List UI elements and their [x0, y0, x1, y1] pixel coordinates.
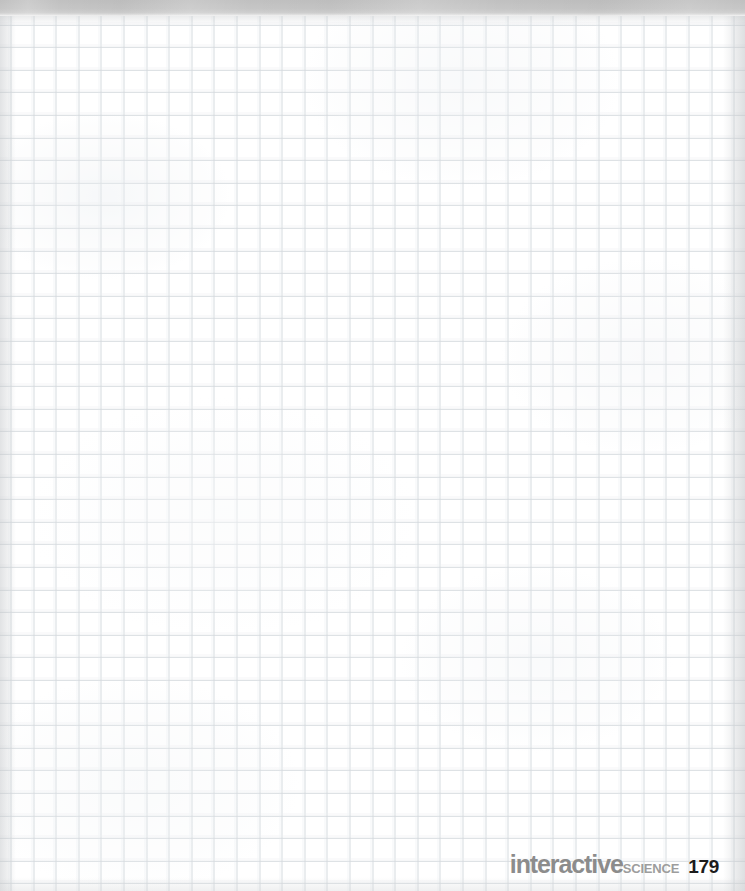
worksheet-page: interactive SCIENCE 179: [0, 0, 745, 891]
worksheet-content-area[interactable]: [11, 16, 723, 874]
page-number: 179: [688, 857, 719, 876]
brand-name-interactive: interactive: [510, 852, 623, 877]
footer-branding: interactive SCIENCE 179: [510, 852, 719, 877]
scan-edge-band-texture: [0, 0, 745, 16]
brand-name-science: SCIENCE: [623, 862, 679, 875]
